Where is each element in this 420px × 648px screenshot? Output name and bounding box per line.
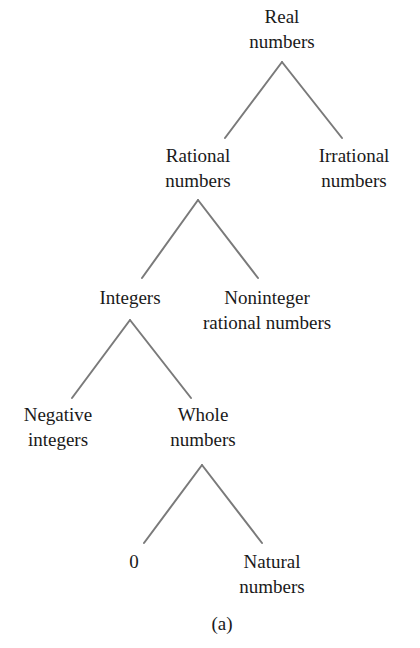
node-whole-numbers: Whole numbers <box>170 402 235 452</box>
node-natural-numbers: Natural numbers <box>239 549 304 599</box>
node-label: numbers <box>165 168 230 193</box>
node-real-numbers: Real numbers <box>249 4 314 54</box>
node-label: Real <box>249 4 314 29</box>
node-label: Noninteger <box>203 285 331 310</box>
edge-integers-negative <box>72 320 130 398</box>
node-noninteger-rational-numbers: Noninteger rational numbers <box>203 285 331 335</box>
edge-whole-natural <box>202 465 262 543</box>
node-label: numbers <box>319 168 390 193</box>
figure-caption: (a) <box>211 611 232 636</box>
node-label: numbers <box>239 574 304 599</box>
node-integers: Integers <box>99 285 160 310</box>
node-zero: 0 <box>129 549 139 574</box>
node-label: Rational <box>165 143 230 168</box>
edge-real-irrational <box>282 62 342 138</box>
node-label: Natural <box>239 549 304 574</box>
node-label: Whole <box>170 402 235 427</box>
edge-whole-zero <box>144 465 202 543</box>
node-label: integers <box>24 427 93 452</box>
node-label: numbers <box>249 29 314 54</box>
edge-rational-integers <box>142 200 198 278</box>
node-irrational-numbers: Irrational numbers <box>319 143 390 193</box>
node-label: numbers <box>170 427 235 452</box>
node-label: Irrational <box>319 143 390 168</box>
node-label: rational numbers <box>203 310 331 335</box>
number-classification-tree: Real numbers Rational numbers Irrational… <box>0 0 420 648</box>
node-label: 0 <box>129 549 139 574</box>
edge-integers-whole <box>130 320 191 398</box>
node-label: Negative <box>24 402 93 427</box>
node-negative-integers: Negative integers <box>24 402 93 452</box>
edge-real-rational <box>225 62 282 138</box>
node-rational-numbers: Rational numbers <box>165 143 230 193</box>
edge-rational-noninteger <box>198 200 258 278</box>
node-label: Integers <box>99 285 160 310</box>
